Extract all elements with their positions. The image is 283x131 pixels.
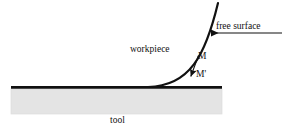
tool-body [11, 89, 222, 114]
label-tool: tool [110, 116, 125, 126]
diagram-canvas [0, 0, 283, 131]
label-point-m-prime: M' [196, 70, 206, 80]
label-workpiece: workpiece [130, 45, 170, 55]
label-point-m: M [198, 52, 206, 62]
label-free-surface: free surface [216, 22, 261, 32]
figure-container: free surface workpiece M M' tool [0, 0, 283, 131]
